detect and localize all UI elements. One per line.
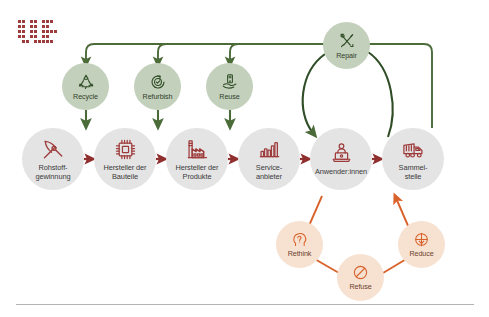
node-rohstoffgewinnung[interactable]: Rohstoff- gewinnung (22, 128, 84, 190)
target-down-arrow-icon (413, 231, 430, 248)
node-label: Refurbish (143, 93, 173, 101)
node-label: Refuse (349, 283, 371, 291)
node-reuse[interactable]: Reuse (206, 63, 253, 110)
factory-icon (186, 138, 209, 161)
node-label: Rohstoff- gewinnung (36, 164, 71, 181)
bar-chart-icon (258, 138, 281, 161)
node-sammelstelle[interactable]: Sammel- stelle (382, 128, 444, 190)
node-label: Anwender:innen (315, 168, 367, 177)
hand-device-icon (221, 73, 239, 91)
node-label: Service- anbieter (256, 164, 282, 181)
repair-loop-in (368, 52, 393, 137)
node-reduce[interactable]: Reduce (398, 221, 445, 268)
head-question-icon (291, 231, 308, 248)
node-hersteller-bauteile[interactable]: Hersteller der Bauteile (94, 128, 156, 190)
tools-cross-icon (338, 32, 356, 50)
pickaxe-icon (42, 138, 65, 161)
node-label: Reuse (219, 93, 239, 101)
pixel-logo (18, 20, 64, 44)
node-refuse[interactable]: Refuse (337, 254, 384, 301)
prohibition-icon (352, 264, 369, 281)
orange-link-reduce (396, 198, 409, 228)
node-label: Rethink (288, 250, 312, 258)
node-refurbish[interactable]: Refurbish (134, 63, 181, 110)
node-hersteller-produkte[interactable]: Hersteller der Produkte (166, 128, 228, 190)
diagram-canvas: Recycle Refurbish Reuse (0, 0, 489, 317)
node-recycle[interactable]: Recycle (62, 63, 109, 110)
node-label: Hersteller der Produkte (176, 164, 219, 181)
node-label: Reduce (409, 250, 433, 258)
repair-loop-out (303, 54, 325, 133)
user-laptop-icon (330, 142, 353, 165)
node-serviceanbieter[interactable]: Service- anbieter (238, 128, 300, 190)
recycling-symbol-icon (77, 73, 95, 91)
node-label: Recycle (73, 93, 98, 101)
node-label: Hersteller der Bauteile (104, 164, 147, 181)
node-repair[interactable]: Repair (323, 22, 370, 69)
clock-arrows-icon (149, 73, 167, 91)
green-drop-group (86, 110, 230, 124)
node-label: Repair (336, 52, 357, 60)
node-label: Sammel- stelle (399, 164, 428, 181)
green-branch-refurbish (158, 44, 166, 62)
green-branch-reuse (230, 44, 238, 62)
garbage-truck-icon (402, 138, 425, 161)
microchip-icon (114, 138, 137, 161)
node-rethink[interactable]: Rethink (276, 221, 323, 268)
bottom-divider (16, 304, 474, 305)
node-anwender-innen[interactable]: Anwender:innen (310, 128, 372, 190)
